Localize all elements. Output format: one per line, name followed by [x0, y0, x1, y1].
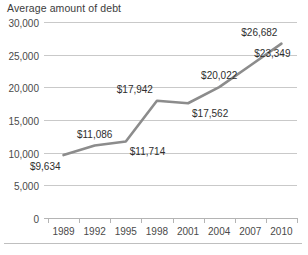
data-point-label: $20,022: [201, 70, 238, 81]
x-axis-tick-labels: 19891992199519982001200420072010: [52, 226, 293, 237]
y-axis-tick-labels: 05,00010,00015,00020,00025,00030,000: [8, 18, 39, 225]
data-point-label: $23,349: [254, 48, 291, 59]
data-point-label: $17,562: [192, 108, 229, 119]
x-axis-label: 1992: [84, 226, 107, 237]
data-point-label: $11,714: [130, 146, 166, 157]
data-point-label: $11,086: [77, 129, 113, 140]
y-axis-label: 10,000: [8, 149, 39, 160]
data-point-label: $9,634: [30, 161, 61, 172]
y-axis-label: 5,000: [14, 181, 39, 192]
x-axis-label: 2007: [239, 226, 262, 237]
x-axis-label: 2001: [177, 226, 200, 237]
data-point-label: $26,682: [241, 27, 278, 38]
bottom-divider: [4, 243, 302, 244]
y-axis-label: 25,000: [8, 51, 39, 62]
x-axis-label: 1998: [146, 226, 169, 237]
data-point-labels: $9,634$11,086$11,714$17,942$17,562$20,02…: [30, 27, 291, 172]
y-axis-label: 20,000: [8, 83, 39, 94]
line-chart-plot: 05,00010,00015,00020,00025,00030,000 198…: [0, 0, 308, 255]
x-axis-label: 1995: [115, 226, 138, 237]
chart-container: Average amount of debt 05,00010,00015,00…: [0, 0, 308, 255]
y-axis-label: 15,000: [8, 116, 39, 127]
x-axis-label: 2010: [270, 226, 293, 237]
y-axis-label: 0: [33, 214, 39, 225]
x-axis-label: 1989: [52, 226, 75, 237]
y-axis-label: 30,000: [8, 18, 39, 29]
x-axis-label: 2004: [208, 226, 231, 237]
data-point-label: $17,942: [117, 84, 154, 95]
